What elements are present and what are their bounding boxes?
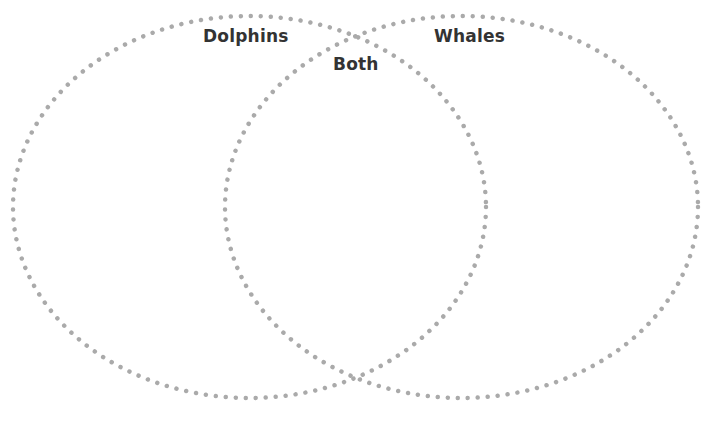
label-dolphins: Dolphins: [203, 28, 289, 45]
venn-diagram: Dolphins Whales Both: [0, 0, 713, 421]
label-whales: Whales: [434, 28, 505, 45]
label-both: Both: [333, 56, 379, 73]
left-ellipse: [13, 16, 486, 398]
right-ellipse: [225, 16, 698, 398]
